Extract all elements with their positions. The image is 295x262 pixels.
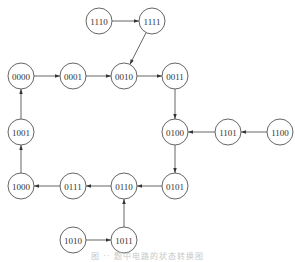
state-label: 1100 <box>271 128 289 138</box>
state-node-1110: 1110 <box>86 8 112 34</box>
state-label: 0101 <box>166 182 184 192</box>
state-node-0111: 0111 <box>60 173 86 199</box>
state-label: 0011 <box>166 72 184 82</box>
state-node-0000: 0000 <box>8 63 34 89</box>
state-node-1001: 1001 <box>8 119 34 145</box>
state-label: 1111 <box>144 17 161 27</box>
transition-arrow-1111-to-0010 <box>130 33 146 65</box>
state-label: 1001 <box>12 128 30 138</box>
state-diagram: 1110111100000001001000111001010011011100… <box>0 0 295 262</box>
state-label: 1110 <box>90 17 108 27</box>
state-label: 0000 <box>12 72 31 82</box>
state-label: 1000 <box>12 182 31 192</box>
state-label: 0100 <box>166 128 185 138</box>
state-label: 1011 <box>115 236 133 246</box>
state-node-1000: 1000 <box>8 173 34 199</box>
state-label: 1101 <box>219 128 237 138</box>
state-node-0011: 0011 <box>162 63 188 89</box>
state-nodes: 1110111100000001001000111001010011011100… <box>8 8 293 253</box>
figure-caption: 图 ·· 题中电路的状态转换图 <box>0 250 295 261</box>
state-label: 0111 <box>64 182 81 192</box>
state-node-0101: 0101 <box>162 173 188 199</box>
state-label: 0110 <box>115 182 133 192</box>
state-node-1100: 1100 <box>267 119 293 145</box>
state-label: 0010 <box>115 72 134 82</box>
state-node-0001: 0001 <box>60 63 86 89</box>
state-node-1111: 1111 <box>139 8 165 34</box>
state-node-1101: 1101 <box>215 119 241 145</box>
state-node-0010: 0010 <box>111 63 137 89</box>
state-label: 1010 <box>64 236 83 246</box>
state-node-0100: 0100 <box>162 119 188 145</box>
state-label: 0001 <box>64 72 82 82</box>
state-node-0110: 0110 <box>111 173 137 199</box>
